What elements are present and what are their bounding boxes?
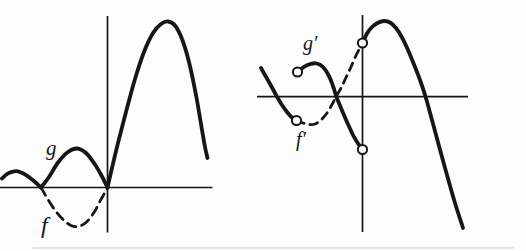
- open-point: [292, 116, 301, 125]
- open-point: [358, 145, 367, 154]
- curve-label-f-prime: f′: [296, 129, 306, 149]
- right-graph: [257, 15, 468, 232]
- curve-label-f: f: [41, 213, 48, 237]
- curve-f_prime: [297, 43, 363, 125]
- figure-container: g f g′ f′: [0, 0, 526, 251]
- curve-g-3: [108, 21, 208, 187]
- scan-artifact-line: [32, 247, 514, 249]
- curve-label-g-prime: g′: [303, 33, 317, 53]
- curve-g_prime-3: [363, 21, 464, 228]
- open-point: [293, 67, 302, 76]
- curve-g-1: [2, 171, 41, 187]
- left-graph: [0, 16, 213, 233]
- open-point: [358, 38, 367, 47]
- curve-label-g: g: [46, 138, 57, 159]
- curve-g_prime-1: [261, 68, 297, 121]
- figure-svg: [0, 0, 526, 251]
- curve-f: [41, 188, 108, 227]
